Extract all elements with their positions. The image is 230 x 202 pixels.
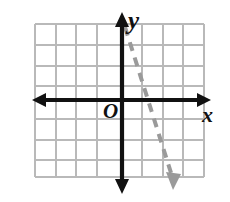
y-axis-arrowhead-bottom-icon [115, 179, 129, 194]
y-axis-label: y [128, 8, 139, 33]
y-axis-arrowhead-top-icon [115, 12, 129, 27]
dashed-line-graph [125, 27, 181, 190]
origin-label: O [103, 101, 118, 122]
x-axis-arrowhead-left-icon [32, 93, 46, 107]
coordinate-plane-figure: y x O [0, 0, 230, 202]
x-axis-label: x [202, 104, 213, 126]
dashed-line-arrowhead-icon [166, 172, 181, 190]
